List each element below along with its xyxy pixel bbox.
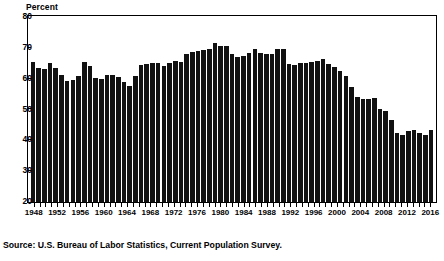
x-axis-tick bbox=[75, 203, 76, 207]
x-axis-tick-label: 1984 bbox=[235, 207, 253, 218]
x-axis-tick bbox=[220, 203, 221, 207]
bar-series bbox=[28, 16, 436, 202]
bar bbox=[344, 76, 349, 202]
x-axis-tick bbox=[92, 203, 93, 207]
bar bbox=[332, 67, 337, 202]
x-axis-tick-label: 2004 bbox=[351, 207, 369, 218]
bar bbox=[190, 52, 195, 202]
x-axis-tick bbox=[162, 203, 163, 207]
bar bbox=[162, 66, 167, 202]
bar bbox=[406, 131, 411, 202]
bar bbox=[139, 65, 144, 202]
bar bbox=[281, 49, 286, 202]
x-axis-tick-label: 1988 bbox=[258, 207, 276, 218]
x-axis-tick bbox=[133, 203, 134, 207]
x-axis-tick bbox=[40, 203, 41, 207]
x-axis-tick bbox=[343, 203, 344, 207]
x-axis-tick bbox=[384, 203, 385, 207]
bar bbox=[361, 99, 366, 202]
x-axis-tick bbox=[279, 203, 280, 207]
x-axis-tick-label: 2012 bbox=[398, 207, 416, 218]
bar bbox=[366, 99, 371, 202]
x-axis-tick bbox=[238, 203, 239, 207]
x-axis-tick bbox=[226, 203, 227, 207]
bar bbox=[179, 62, 184, 202]
x-axis-tick bbox=[308, 203, 309, 207]
x-axis-tick bbox=[209, 203, 210, 207]
bar bbox=[76, 76, 81, 202]
bar bbox=[144, 64, 149, 202]
y-axis-tick-label: 30 bbox=[8, 166, 32, 175]
x-axis-tick bbox=[150, 203, 151, 207]
bar bbox=[321, 59, 326, 202]
y-axis-tick-label: 60 bbox=[8, 74, 32, 83]
bar bbox=[400, 135, 405, 202]
bar bbox=[395, 133, 400, 202]
x-axis-tick bbox=[273, 203, 274, 207]
bar bbox=[88, 66, 93, 202]
x-axis-tick bbox=[45, 203, 46, 207]
y-axis-tick-label: 50 bbox=[8, 105, 32, 114]
x-axis-tick-label: 1972 bbox=[165, 207, 183, 218]
x-axis-tick-label: 1992 bbox=[281, 207, 299, 218]
bar bbox=[196, 51, 201, 202]
x-axis-tick-label: 1976 bbox=[188, 207, 206, 218]
bar bbox=[247, 53, 252, 202]
x-axis-tick bbox=[51, 203, 52, 207]
bar bbox=[235, 57, 240, 202]
bar bbox=[412, 130, 417, 202]
x-axis-tick bbox=[80, 203, 81, 207]
x-axis-tick-label: 1960 bbox=[95, 207, 113, 218]
bar bbox=[429, 130, 434, 202]
bar bbox=[82, 62, 87, 202]
bar bbox=[423, 135, 428, 202]
x-axis-tick bbox=[110, 203, 111, 207]
bar bbox=[292, 65, 297, 202]
x-axis-tick bbox=[290, 203, 291, 207]
x-axis-tick bbox=[424, 203, 425, 207]
bar bbox=[241, 56, 246, 202]
x-axis-tick bbox=[197, 203, 198, 207]
bar bbox=[65, 81, 70, 202]
x-axis-tick bbox=[354, 203, 355, 207]
x-axis-tick bbox=[98, 203, 99, 207]
bar bbox=[184, 54, 189, 202]
x-axis-tick bbox=[156, 203, 157, 207]
bar bbox=[42, 69, 47, 202]
bar bbox=[258, 53, 263, 202]
bar bbox=[309, 62, 314, 202]
bar bbox=[389, 120, 394, 202]
bar bbox=[315, 61, 320, 202]
bar bbox=[349, 87, 354, 203]
bar bbox=[116, 77, 121, 202]
x-axis-tick bbox=[389, 203, 390, 207]
x-axis-tick bbox=[360, 203, 361, 207]
bar bbox=[326, 64, 331, 202]
x-axis-tick-label: 1952 bbox=[48, 207, 66, 218]
x-axis-tick bbox=[232, 203, 233, 207]
x-axis-tick bbox=[372, 203, 373, 207]
x-axis-tick bbox=[314, 203, 315, 207]
chart-figure: Percent 19481952195619601964196819721976… bbox=[0, 0, 444, 261]
x-axis-tick bbox=[34, 203, 35, 207]
bar bbox=[122, 82, 127, 202]
bar bbox=[218, 46, 223, 202]
bar bbox=[270, 54, 275, 202]
x-axis-tick bbox=[215, 203, 216, 207]
x-axis-tick bbox=[69, 203, 70, 207]
x-axis-tick bbox=[168, 203, 169, 207]
bar bbox=[230, 54, 235, 202]
x-axis-tick-label: 2000 bbox=[328, 207, 346, 218]
x-axis-tick bbox=[127, 203, 128, 207]
x-axis-tick bbox=[319, 203, 320, 207]
bar bbox=[213, 43, 218, 202]
x-axis-tick bbox=[349, 203, 350, 207]
x-axis-tick bbox=[180, 203, 181, 207]
x-axis-tick-label: 1956 bbox=[71, 207, 89, 218]
x-axis-tick bbox=[261, 203, 262, 207]
x-axis-tick bbox=[255, 203, 256, 207]
bar bbox=[304, 63, 309, 202]
x-axis-tick bbox=[395, 203, 396, 207]
x-axis-labels: 1948195219561960196419681972197619801984… bbox=[27, 207, 437, 220]
x-axis-tick bbox=[174, 203, 175, 207]
